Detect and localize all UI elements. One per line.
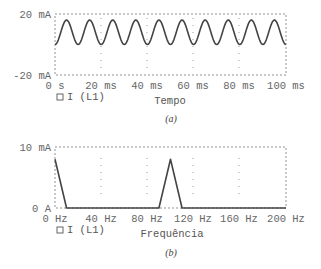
plot-a-legend-label: I (L1) [67, 91, 105, 103]
plot-b-x-axis-label: Frequência [140, 228, 203, 240]
plot-a-x-tick: 60 ms [177, 80, 209, 92]
plot-a-x-axis-label: Tempo [154, 95, 186, 107]
plot-b-trace-i-l1 [55, 159, 286, 208]
plot-b-legend-label: I (L1) [67, 224, 105, 236]
plot-b-x-tick: 160 Hz [220, 213, 258, 225]
plot-a-trace-i-l1 [55, 20, 286, 44]
plot-a-x-tick: 40 ms [131, 80, 163, 92]
plot-b-x-tick: 0 Hz [42, 213, 67, 225]
plot-a-y-tick-top: 20 mA [19, 9, 51, 21]
plot-a-legend-marker-icon [57, 94, 63, 100]
plot-a-x-tick: 100 ms [267, 80, 305, 92]
plot-b-legend-marker-icon [57, 227, 63, 233]
plot-a-caption: (a) [165, 113, 177, 125]
plot-a-x-tick: 0 s [46, 80, 65, 92]
plot-a-x-tick: 80 ms [223, 80, 255, 92]
plot-b-x-tick: 80 Hz [131, 213, 163, 225]
plot-b-x-tick: 120 Hz [174, 213, 212, 225]
plot-b-frame [55, 147, 286, 208]
plot-b-x-tick: 200 Hz [267, 213, 305, 225]
plot-b-frequency-domain: 10 mA 0 A 0 Hz 40 Hz 80 Hz 120 Hz 160 Hz… [19, 142, 304, 259]
plot-b-caption: (b) [165, 247, 177, 259]
plot-b-y-tick-top: 10 mA [19, 142, 51, 154]
plot-a-time-domain: 20 mA -20 mA 0 s 20 ms 40 ms 60 ms 80 ms… [13, 9, 305, 125]
figure: 20 mA -20 mA 0 s 20 ms 40 ms 60 ms 80 ms… [0, 0, 321, 269]
